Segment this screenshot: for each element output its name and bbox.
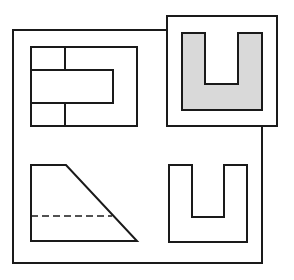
diagram-drawing: [0, 0, 294, 280]
top-view-outline: [31, 47, 137, 126]
top-view: [31, 47, 137, 126]
orthographic-diagram: [0, 0, 294, 280]
front-view: [31, 165, 137, 241]
front-view-trapezoid: [31, 165, 137, 241]
top-view-tongue: [31, 70, 113, 103]
side-view-u-shape: [169, 165, 247, 242]
